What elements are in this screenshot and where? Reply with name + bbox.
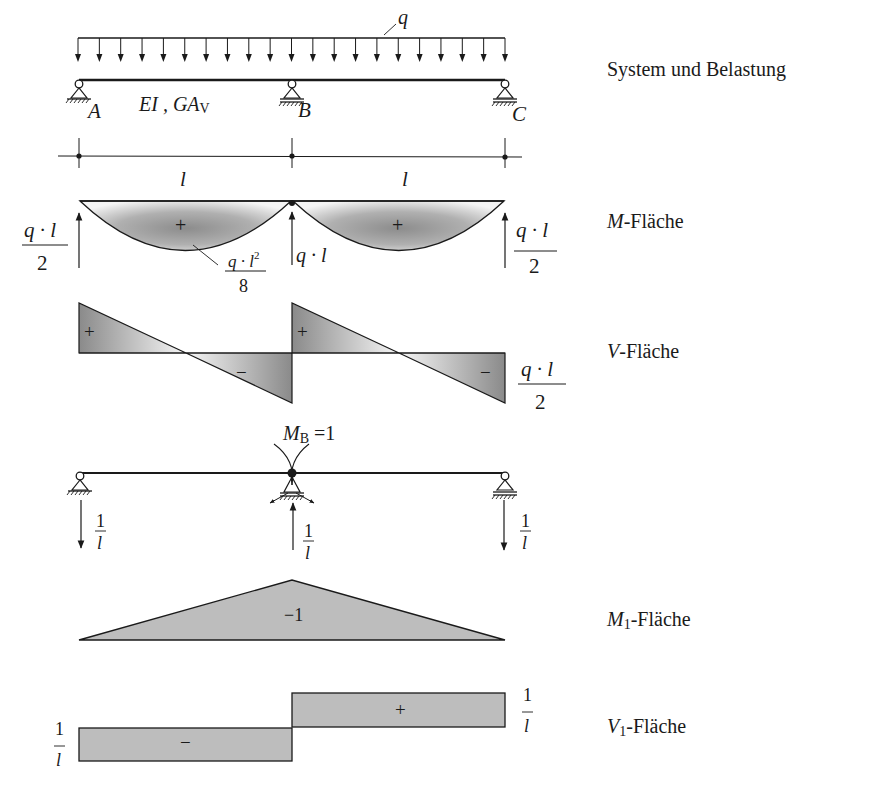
unit-reaction-b-num: 1 — [304, 521, 313, 541]
v1-diagram-title: V1-Fläche — [607, 715, 686, 739]
unit-reaction-c-num: 1 — [521, 511, 530, 531]
m-diagram-title: M-Fläche — [606, 210, 684, 232]
dimension-line: l l — [58, 138, 522, 191]
m-max-num: q · l2 — [228, 249, 259, 271]
load-arrow-icon — [289, 54, 295, 62]
v-diagram: + − + − q · l 2 V-Fläche — [79, 303, 679, 414]
m-reaction-b: q · l — [296, 244, 327, 267]
m-reaction-a-num: q · l — [24, 218, 56, 242]
load-label: q — [398, 6, 408, 29]
unit-reaction-b-den: l — [305, 543, 310, 563]
m1-value: −1 — [284, 605, 303, 625]
stiffness-label: EI , GAV — [138, 93, 210, 116]
load-arrow-icon — [417, 54, 423, 62]
support-label-a: A — [86, 99, 101, 123]
m-reaction-c-den: 2 — [529, 254, 540, 278]
unit-moment-system: MB =1 1 l 1 l 1 — [67, 422, 531, 563]
m-sign-left: + — [175, 214, 186, 236]
load-arrow-icon — [459, 54, 465, 62]
v1-right-den: l — [524, 716, 529, 736]
m-max-den: 8 — [239, 276, 248, 296]
m1-diagram-title: M1-Fläche — [606, 608, 691, 632]
load-arrow-icon — [118, 54, 124, 62]
load-arrow-icon — [224, 54, 230, 62]
v1-left-den: l — [56, 750, 61, 770]
unit-reaction-a-den: l — [97, 533, 102, 553]
load-arrow-icon — [267, 54, 273, 62]
v1-left-num: 1 — [55, 719, 64, 739]
m-reaction-c-num: q · l — [516, 218, 548, 242]
v-sign-4: − — [480, 362, 491, 383]
load-arrow-icon — [75, 54, 81, 62]
m1-diagram: −1 M1-Fläche — [79, 580, 691, 640]
distributed-load-q: q — [75, 6, 508, 62]
v1-sign-right: + — [395, 699, 406, 720]
load-arrow-icon — [310, 54, 316, 62]
beam-diagram-canvas: q A B C EI , GAV — [0, 0, 888, 793]
v-sign-2: − — [236, 362, 247, 383]
v1-sign-left: − — [180, 732, 191, 753]
load-arrow-icon — [160, 54, 166, 62]
unit-reaction-c-den: l — [522, 533, 527, 553]
v-sign-3: + — [297, 321, 308, 342]
load-arrow-icon — [331, 54, 337, 62]
load-arrow-icon — [96, 54, 102, 62]
v-sign-1: + — [84, 321, 95, 342]
load-arrow-icon — [502, 54, 508, 62]
load-arrow-icon — [182, 54, 188, 62]
load-arrow-icon — [353, 54, 359, 62]
load-arrow-icon — [203, 54, 209, 62]
support-label-b: B — [298, 98, 311, 122]
system-title: System und Belastung — [607, 58, 786, 81]
load-arrow-icon — [438, 54, 444, 62]
system-group: q A B C EI , GAV — [58, 6, 786, 191]
v1-diagram: − + 1 l 1 l V1-Fläche — [54, 685, 686, 770]
v-value-num: q · l — [521, 357, 553, 381]
load-arrow-icon — [374, 54, 380, 62]
v-value-den: 2 — [535, 390, 546, 414]
load-arrow-icon — [395, 54, 401, 62]
unit-moment-label: MB =1 — [282, 422, 335, 446]
v1-right-num: 1 — [523, 685, 532, 705]
load-arrow-icon — [139, 54, 145, 62]
m-diagram: + + q · l 2 q · l q · l2 8 q · l 2 M-Flä… — [22, 200, 684, 296]
unit-reaction-a-num: 1 — [96, 511, 105, 531]
support-label-c: C — [512, 102, 527, 126]
load-arrow-icon — [246, 54, 252, 62]
v-diagram-title: V-Fläche — [607, 340, 679, 362]
load-arrow-icon — [481, 54, 487, 62]
m-sign-right: + — [392, 214, 403, 236]
m-reaction-a-den: 2 — [37, 251, 48, 275]
span-label-2: l — [402, 167, 408, 191]
span-label-1: l — [180, 167, 186, 191]
